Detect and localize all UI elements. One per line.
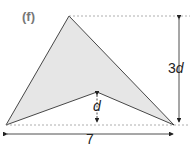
width-label: 7 xyxy=(86,131,94,145)
inner-height-label: d xyxy=(93,98,101,114)
shaded-polygon xyxy=(6,16,174,125)
height-label: 3d xyxy=(168,60,184,76)
figure: (f) 3d d 7 xyxy=(0,0,193,145)
part-label: (f) xyxy=(22,9,35,24)
